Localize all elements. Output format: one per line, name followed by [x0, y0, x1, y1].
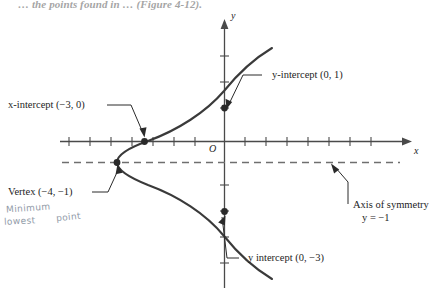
origin-label: O [209, 143, 216, 154]
leader-axis-of-symmetry [335, 167, 348, 204]
figure-container: … the points found in … (Figure 4-12). [0, 0, 436, 296]
axis-label-x: x [414, 145, 418, 156]
page-header-text: … the points found in … (Figure 4-12). [18, 0, 318, 10]
label-axis-of-symmetry: Axis of symmetry [353, 198, 429, 211]
handwritten-lowest: lowest [4, 215, 36, 227]
y-axis [220, 19, 229, 288]
point-vertex [114, 159, 121, 166]
label-y-intercept-lower: y intercept (0, −3) [248, 251, 324, 264]
plot-points [114, 105, 228, 215]
label-vertex: Vertex (−4, −1) [8, 185, 73, 198]
point-y-intercept-lower [221, 208, 228, 215]
coordinate-plane-graph [0, 0, 436, 296]
point-x-intercept [141, 138, 148, 145]
label-y-intercept-upper: y-intercept (0, 1) [272, 68, 343, 81]
x-axis [60, 137, 412, 146]
axis-label-y: y [231, 10, 235, 21]
leader-x-intercept [107, 105, 143, 133]
leader-vertex [92, 168, 119, 192]
label-axis-of-symmetry-equation: y = −1 [362, 211, 390, 224]
label-x-intercept: x-intercept (−3, 0) [8, 98, 85, 111]
parabola-curve [117, 48, 272, 279]
